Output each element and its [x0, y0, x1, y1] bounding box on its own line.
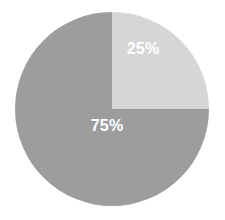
pie-chart-svg: [0, 0, 225, 220]
pie-slice-25[interactable]: [112, 12, 209, 109]
pie-slice-label-75: 75%: [91, 118, 124, 134]
pie-chart: 25% 75% Pie chart with two slices: 25% l…: [0, 0, 225, 220]
pie-slice-label-25: 25%: [127, 41, 160, 57]
